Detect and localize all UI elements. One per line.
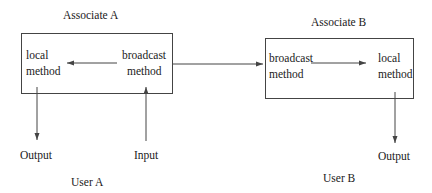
user-b-output-label: Output (378, 150, 410, 163)
associate-b-title: Associate B (311, 16, 366, 29)
associate-a-broadcast-line1: broadcast (122, 49, 166, 62)
user-a-input-label: Input (134, 149, 158, 162)
associate-a-box (21, 33, 173, 94)
associate-a-broadcast-line2: method (127, 65, 162, 78)
associate-b-broadcast-line2: method (269, 68, 304, 81)
user-a-label: User A (71, 176, 103, 189)
associate-a-title: Associate A (63, 9, 118, 22)
user-b-label: User B (323, 172, 355, 185)
associate-b-local-line1: local (378, 52, 400, 65)
associate-a-local-line1: local (26, 49, 48, 62)
associate-b-broadcast-line1: broadcast (269, 52, 313, 65)
user-a-output-label: Output (20, 149, 52, 162)
associate-b-local-line2: method (378, 68, 413, 81)
associate-a-local-line2: method (26, 65, 61, 78)
